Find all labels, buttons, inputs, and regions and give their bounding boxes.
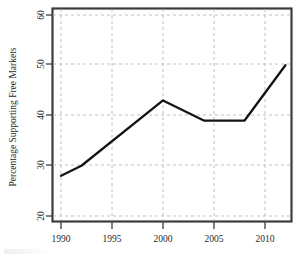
xtick-label-1995: 1995 bbox=[103, 234, 122, 244]
line-chart: 60 50 40 30 20 1990 1995 2000 2005 2010 … bbox=[0, 0, 305, 255]
x-axis-ticks bbox=[61, 222, 265, 229]
ytick-label-60: 60 bbox=[36, 10, 46, 20]
ytick-label-40: 40 bbox=[36, 110, 46, 120]
y-axis-title: Percentage Supporting Free Markets bbox=[8, 47, 18, 186]
plot-frame bbox=[53, 9, 292, 222]
ytick-label-50: 50 bbox=[36, 59, 46, 69]
xtick-label-2010: 2010 bbox=[256, 234, 275, 244]
page-edge-artifact bbox=[4, 249, 50, 254]
ytick-label-30: 30 bbox=[36, 160, 46, 170]
xtick-label-1990: 1990 bbox=[52, 234, 71, 244]
chart-figure: 60 50 40 30 20 1990 1995 2000 2005 2010 … bbox=[0, 0, 305, 255]
x-axis-tick-labels: 1990 1995 2000 2005 2010 bbox=[52, 234, 275, 244]
y-axis-tick-labels: 60 50 40 30 20 bbox=[36, 10, 46, 221]
xtick-label-2005: 2005 bbox=[205, 234, 224, 244]
xtick-label-2000: 2000 bbox=[154, 234, 173, 244]
ytick-label-20: 20 bbox=[36, 211, 46, 221]
